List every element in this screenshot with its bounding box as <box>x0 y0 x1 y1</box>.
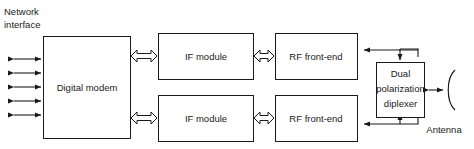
antenna-dish-icon <box>448 70 455 110</box>
block-if-module-bottom: IF module <box>159 96 254 142</box>
antenna-label: Antenna <box>426 124 462 135</box>
network-interface-label-line1: Network <box>4 6 39 17</box>
block-dual-polarization-diplexer: Dual polarization diplexer <box>376 63 425 118</box>
block-diagram-canvas: Network interface Digital modem <box>0 0 474 149</box>
block-if-module-top: IF module <box>159 34 254 80</box>
block-arrow-if-to-rf-bottom <box>254 112 274 124</box>
bidirectional-block-arrow-icon <box>254 112 274 124</box>
diplexer-label-line1: Dual <box>391 68 411 79</box>
network-interface-arrow-group <box>14 59 41 115</box>
block-rf-front-end-bottom: RF front-end <box>276 96 358 142</box>
if-module-bottom-label: IF module <box>185 113 227 124</box>
block-arrow-modem-to-if-bottom <box>131 112 157 124</box>
rf-front-end-bottom-label: RF front-end <box>289 113 342 124</box>
diplexer-label-line3: diplexer <box>384 98 417 109</box>
bidirectional-block-arrow-icon <box>131 50 157 62</box>
bidirectional-block-arrow-icon <box>254 50 274 62</box>
rf-front-end-top-label: RF front-end <box>289 51 342 62</box>
diplexer-label-line2: polarization <box>376 83 425 94</box>
if-module-top-label: IF module <box>185 51 227 62</box>
digital-modem-label: Digital modem <box>57 82 118 93</box>
network-interface-label-line2: interface <box>4 19 40 30</box>
antenna-dish-arc <box>448 70 455 110</box>
connector-diplexer-to-rf-top-path <box>358 50 422 64</box>
block-arrow-modem-to-if-top <box>131 50 157 62</box>
block-rf-front-end-top: RF front-end <box>276 34 358 80</box>
block-digital-modem: Digital modem <box>44 37 131 139</box>
bidirectional-block-arrow-icon <box>131 112 157 124</box>
block-diagram-svg: Network interface Digital modem <box>0 0 474 149</box>
block-arrow-if-to-rf-top <box>254 50 274 62</box>
